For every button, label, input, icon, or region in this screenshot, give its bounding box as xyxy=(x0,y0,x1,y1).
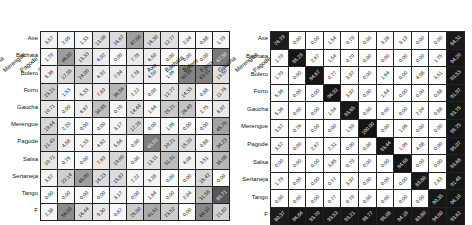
heatmap-cell: 58.09 xyxy=(58,204,74,220)
cell-value: 0.00 xyxy=(362,176,373,187)
heatmap-cell: 0.79 xyxy=(341,50,358,67)
row-header: Bachata xyxy=(16,52,38,58)
cell-value: 9.30 xyxy=(95,207,106,218)
heatmap-cell: 6.92 xyxy=(93,66,109,82)
cell-value: 0.00 xyxy=(432,123,443,134)
heatmap-cell: 0.00 xyxy=(377,102,394,119)
cell-value: 24.00 xyxy=(77,68,90,81)
heatmap-cell: 0.76 xyxy=(58,152,74,168)
cell-value: 48.82 xyxy=(60,51,73,64)
heatmap-cell: 22.14 xyxy=(58,170,74,186)
heatmap-cell: 85.71 xyxy=(213,187,229,203)
cell-value: 7.69 xyxy=(95,155,106,166)
cell-value: 0.77 xyxy=(327,176,338,187)
heatmap-cell: 0.00 xyxy=(359,155,376,172)
cell-value: 0.00 xyxy=(309,193,320,204)
heatmap-cell: 3.19 xyxy=(394,32,411,49)
cell-value: 16.23 xyxy=(94,171,107,184)
cell-value: 1.79 xyxy=(274,52,285,63)
cell-value: 91.97 xyxy=(449,87,462,100)
row-header: Tango xyxy=(22,190,38,196)
cell-value: 1.75 xyxy=(432,52,443,63)
cell-value: 19.00 xyxy=(111,154,124,167)
cell-value: 1.79 xyxy=(274,176,285,187)
cell-value: 0.00 xyxy=(44,189,55,200)
heatmap-cell: 0.00 xyxy=(306,120,323,137)
cell-value: 93.65 xyxy=(343,104,356,117)
cell-value: 0.00 xyxy=(362,193,373,204)
cell-value: 95.08 xyxy=(378,210,391,223)
cell-value: 94.20 xyxy=(449,51,462,64)
heatmap-cell: 14.44 xyxy=(127,101,143,117)
cell-value: 0.00 xyxy=(344,140,355,151)
heatmap-cell: 1.06 xyxy=(394,138,411,155)
heatmap-cell: 0.00 xyxy=(144,84,160,100)
heatmap-cell: 65.02 xyxy=(144,135,160,151)
cell-value: 0.00 xyxy=(379,105,390,116)
cell-value: 84.31 xyxy=(449,34,462,47)
heatmap-cell: 6.67 xyxy=(75,101,91,117)
cell-value: 3.51 xyxy=(198,155,209,166)
heatmap-cell: 1.79 xyxy=(271,173,288,190)
heatmap-cell: 0.00 xyxy=(306,85,323,102)
heatmap-cell: 93.75 xyxy=(447,102,464,119)
heatmap-cell: 15.20 xyxy=(179,135,195,151)
heatmap-cell: 24.00 xyxy=(75,66,91,82)
heatmap-cell: 23.21 xyxy=(41,84,57,100)
cell-value: 3.28 xyxy=(147,172,158,183)
row-header: Forro xyxy=(254,88,268,94)
cell-value: 16.67 xyxy=(111,34,124,47)
row-header: Tango xyxy=(252,194,268,200)
cell-value: 2.67 xyxy=(309,140,320,151)
cell-value: 0.79 xyxy=(344,35,355,46)
heatmap-cell: 0.00 xyxy=(213,170,229,186)
cell-value: 0.00 xyxy=(379,52,390,63)
row-header: Bolero xyxy=(251,71,268,77)
heatmap-cell: 7.94 xyxy=(110,66,126,82)
cell-value: 4.08 xyxy=(415,140,426,151)
heatmap-cell: 4.08 xyxy=(412,67,429,84)
cell-value: 31.91 xyxy=(163,154,176,167)
cell-value: 23.21 xyxy=(43,85,56,98)
cell-value: 0.00 xyxy=(291,105,302,116)
heatmap-cell: 100.00 xyxy=(359,120,376,137)
heatmap-cell: 7.78 xyxy=(127,66,143,82)
cell-value: 0.77 xyxy=(327,193,338,204)
heatmap-cell: 0.00 xyxy=(429,32,446,49)
cell-value: 0.00 xyxy=(291,176,302,187)
row-header: Gaucha xyxy=(247,106,268,112)
cell-value: 85.71 xyxy=(215,188,228,201)
heatmap-cell: 0.77 xyxy=(324,190,341,207)
heatmap-cell: 7.69 xyxy=(93,152,109,168)
cell-value: 0.00 xyxy=(415,123,426,134)
cell-value: 0.00 xyxy=(181,172,192,183)
heatmap-cell: 0.76 xyxy=(289,120,306,137)
heatmap-cell: 16.67 xyxy=(110,32,126,48)
heatmap-cell: 2.67 xyxy=(306,50,323,67)
cell-value: 0.87 xyxy=(112,207,123,218)
cell-value: 13.08 xyxy=(94,34,107,47)
heatmap-cell: 0.00 xyxy=(127,152,143,168)
heatmap-cell: 95.29 xyxy=(289,50,306,67)
cell-value: 58.09 xyxy=(60,206,73,219)
cell-value: 15.87 xyxy=(111,171,124,184)
heatmap-cell: 5.56 xyxy=(110,135,126,151)
heatmap-cell: 0.00 xyxy=(359,173,376,190)
cell-value: 94.68 xyxy=(396,157,409,170)
heatmap-cell: 2.22 xyxy=(127,170,143,186)
cell-value: 2.04 xyxy=(181,35,192,46)
heatmap-cell: 0.00 xyxy=(161,187,177,203)
heatmap-cell: 0.00 xyxy=(341,138,358,155)
cell-value: 31.58 xyxy=(197,188,210,201)
heatmap-cell: 0.00 xyxy=(359,138,376,155)
heatmap-cell: 7.78 xyxy=(127,49,143,65)
cell-value: 0.76 xyxy=(291,123,302,134)
heatmap-cell: 0.00 xyxy=(289,85,306,102)
cell-value: 93.62 xyxy=(449,210,462,223)
cell-value: 1.79 xyxy=(216,35,227,46)
heatmap-cell: 0.00 xyxy=(93,118,109,134)
row-header: Forro xyxy=(24,87,38,93)
cell-value: 1.59 xyxy=(344,123,355,134)
heatmap-cell: 0.88 xyxy=(429,85,446,102)
cell-value: 7.78 xyxy=(130,52,141,63)
